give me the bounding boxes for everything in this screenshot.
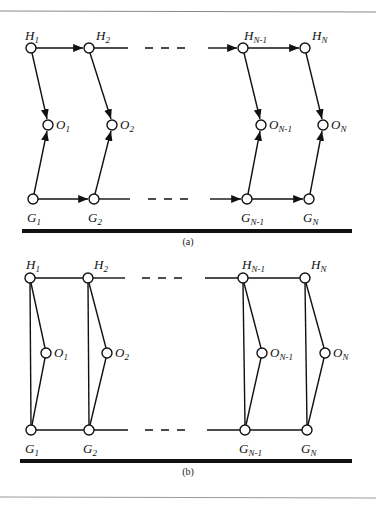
edge-gn-on-b: [308, 358, 324, 425]
node-o2-b: [102, 348, 112, 358]
edge-h2-g2-b: [88, 283, 89, 425]
node-hn-1-b: [238, 273, 248, 283]
edge-h1-o1: [32, 53, 47, 119]
edge-hn-on-b: [306, 283, 324, 348]
node-gn-1-b: [240, 425, 250, 435]
edge-hn1-gn1-b: [243, 283, 245, 425]
node-o2: [107, 120, 117, 130]
label-on-1-b: ON-1: [270, 345, 293, 362]
label-g2-b: G2: [83, 441, 97, 458]
panel-b: H1 H2 HN-1 HN O1 O2 ON-1 ON G1 G2 GN-1 G…: [20, 257, 352, 478]
node-gn-1: [242, 194, 252, 204]
top-rule: [0, 11, 376, 12]
node-on: [318, 120, 328, 130]
caption-b: (b): [182, 466, 194, 478]
bottom-rule: [0, 497, 376, 498]
label-o2: O2: [120, 117, 134, 134]
edge-gn-on: [310, 131, 322, 194]
label-g1-b: G1: [25, 441, 39, 458]
node-gn: [304, 194, 314, 204]
edge-h1-o1-b: [31, 283, 45, 348]
node-h2: [84, 43, 94, 53]
label-o2-b: O2: [115, 345, 129, 362]
edge-g2-o2: [95, 131, 111, 194]
edge-h2-o2: [90, 53, 111, 119]
node-o1: [43, 120, 53, 130]
label-on: ON: [331, 117, 347, 134]
node-on-b: [320, 348, 330, 358]
node-g1: [28, 194, 38, 204]
edge-g2-o2-b: [90, 358, 106, 425]
label-g1: G1: [27, 210, 41, 227]
label-gn-1: GN-1: [241, 210, 264, 227]
label-hn-b: HN: [310, 257, 327, 274]
label-gn-1-b: GN-1: [239, 441, 262, 458]
node-on-1: [256, 120, 266, 130]
panel-a: H1 H2 HN-1 HN O1 O2 ON-1 ON G1 G2 GN-1 G…: [22, 28, 352, 248]
label-on-b: ON: [333, 345, 349, 362]
edge-gn1-on1-b: [246, 358, 261, 425]
edge-hn1-on1-b: [244, 283, 261, 348]
node-g2: [89, 194, 99, 204]
label-hn: HN: [311, 28, 328, 45]
node-hn: [300, 43, 310, 53]
label-on-1: ON-1: [269, 117, 292, 134]
panel-b-baseline: [20, 459, 352, 463]
label-o1-b: O1: [54, 345, 68, 362]
label-hn-1: HN-1: [243, 28, 267, 45]
label-h1: H1: [24, 28, 39, 45]
label-h1-b: H1: [25, 257, 40, 274]
edge-g1-o1: [34, 131, 47, 194]
edge-hn1-on1: [244, 53, 260, 119]
panel-a-baseline: [22, 229, 352, 233]
factorial-hmm-figure: H1 H2 HN-1 HN O1 O2 ON-1 ON G1 G2 GN-1 G…: [0, 0, 376, 506]
label-gn-b: GN: [301, 441, 317, 458]
node-hn-1: [238, 43, 248, 53]
node-gn-b: [302, 425, 312, 435]
edge-hn-gn-b: [305, 283, 307, 425]
node-o1-b: [41, 348, 51, 358]
label-gn: GN: [303, 210, 319, 227]
edge-g1-o1-b: [32, 358, 45, 425]
node-h1-b: [25, 273, 35, 283]
node-g2-b: [84, 425, 94, 435]
label-h2-b: H2: [93, 257, 108, 274]
node-on-1-b: [257, 348, 267, 358]
edge-gn1-on1: [248, 131, 260, 194]
node-g1-b: [26, 425, 36, 435]
node-h2-b: [83, 273, 93, 283]
label-g2: G2: [88, 210, 102, 227]
label-h2: H2: [95, 28, 110, 45]
edge-h2-o2-b: [89, 283, 106, 348]
edge-hn-on: [306, 53, 322, 119]
node-hn-b: [300, 273, 310, 283]
label-hn-1-b: HN-1: [241, 257, 265, 274]
caption-a: (a): [182, 236, 193, 248]
edge-h1-g1-b: [30, 283, 31, 425]
label-o1: O1: [56, 117, 70, 134]
